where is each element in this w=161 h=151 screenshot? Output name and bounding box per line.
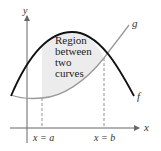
- curve-f-label: f: [137, 90, 140, 102]
- curve-g-label: g: [132, 17, 138, 29]
- x-axis-label: x: [144, 121, 149, 133]
- region-between-curves-figure: y x g f Region between two curves x = a …: [0, 0, 161, 151]
- region-label-line: curves: [55, 68, 92, 79]
- y-axis-label: y: [23, 5, 27, 16]
- region-label: Region between two curves: [55, 35, 92, 79]
- bound-b-label: x = b: [94, 132, 115, 143]
- bound-a-label: x = a: [33, 132, 54, 143]
